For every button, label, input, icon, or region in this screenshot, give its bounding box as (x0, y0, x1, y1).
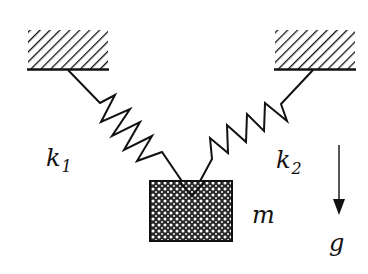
right-ceiling-support (274, 30, 356, 70)
spring-k1 (68, 70, 192, 196)
spring-k2-label: k2 (276, 148, 302, 172)
spring-mass-diagram (0, 0, 368, 274)
spring-k1-label: k1 (46, 146, 72, 170)
left-ceiling-support (27, 30, 109, 70)
mass-block (150, 181, 232, 241)
gravity-label: g (329, 231, 344, 255)
gravity-arrow-icon (333, 145, 345, 215)
mass-label: m (252, 203, 275, 227)
